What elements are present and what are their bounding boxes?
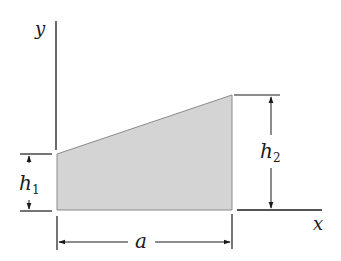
diagram-canvas: y x h1 h2 a — [0, 0, 341, 261]
h1-label: h1 — [19, 171, 40, 197]
h2-dimension: h2 — [234, 95, 281, 208]
y-axis-label: y — [34, 18, 46, 39]
trapezoid-area — [57, 95, 232, 210]
a-dimension: a — [57, 214, 232, 253]
h2-label: h2 — [260, 139, 281, 165]
x-axis-label: x — [313, 213, 323, 234]
a-label: a — [135, 229, 147, 253]
h1-dimension: h1 — [19, 154, 52, 211]
